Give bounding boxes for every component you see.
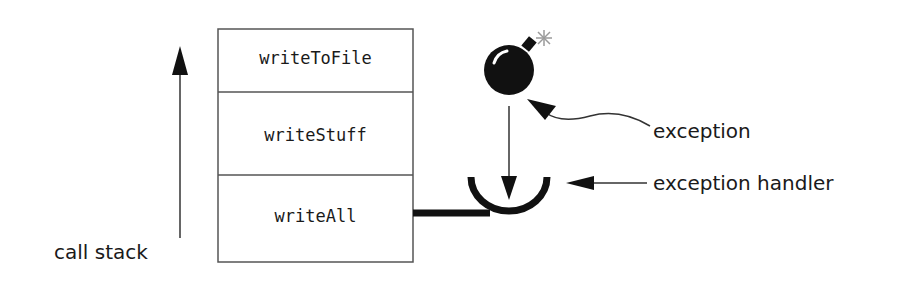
- bomb-icon: [484, 30, 552, 95]
- handler-pointer-arrow: [566, 176, 647, 190]
- exception-pointer-arrow: [527, 99, 650, 126]
- stack-frame-label: writeAll: [218, 206, 413, 226]
- call-stack-arrow: [172, 46, 188, 238]
- spark-icon: [536, 30, 552, 46]
- exception-label: exception: [653, 119, 751, 143]
- call-stack-diagram: writeToFile writeStuff writeAll call sta…: [0, 0, 899, 294]
- stack-frame-label: writeToFile: [218, 48, 413, 68]
- stack-frame-label: writeStuff: [218, 125, 413, 145]
- call-stack-label: call stack: [54, 240, 148, 264]
- exception-drop-arrow: [501, 106, 517, 200]
- exception-handler-label: exception handler: [653, 171, 834, 195]
